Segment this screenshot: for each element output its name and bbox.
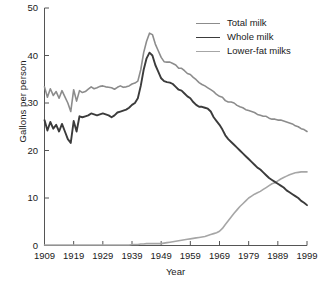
series-line-whole-milk: [45, 53, 308, 205]
y-axis-title: Gallons per person: [17, 32, 28, 172]
legend-item-total-milk: Total milk: [196, 16, 291, 30]
legend-swatch-total-milk: [196, 23, 220, 24]
data-series-paths: [45, 33, 308, 245]
legend-label-lower-fat-milks: Lower-fat milks: [227, 46, 291, 56]
y-tick-label: 0: [12, 241, 38, 251]
legend-swatch-lower-fat-milks: [196, 51, 220, 52]
legend-label-whole-milk: Whole milk: [227, 32, 273, 42]
y-tick-label: 10: [12, 193, 38, 203]
legend-label-total-milk: Total milk: [227, 18, 267, 28]
x-axis-title: Year: [44, 266, 307, 277]
legend-swatch-whole-milk: [196, 37, 220, 38]
legend-item-lower-fat-milks: Lower-fat milks: [196, 44, 291, 58]
series-line-lower-fat-milks: [45, 172, 308, 245]
milk-consumption-line-chart: 01020304050 1909191919291939194919591969…: [0, 0, 321, 284]
x-tick-label: 1999: [287, 251, 321, 261]
chart-legend: Total milk Whole milk Lower-fat milks: [196, 16, 291, 58]
legend-item-whole-milk: Whole milk: [196, 30, 291, 44]
y-tick-label: 50: [12, 3, 38, 13]
